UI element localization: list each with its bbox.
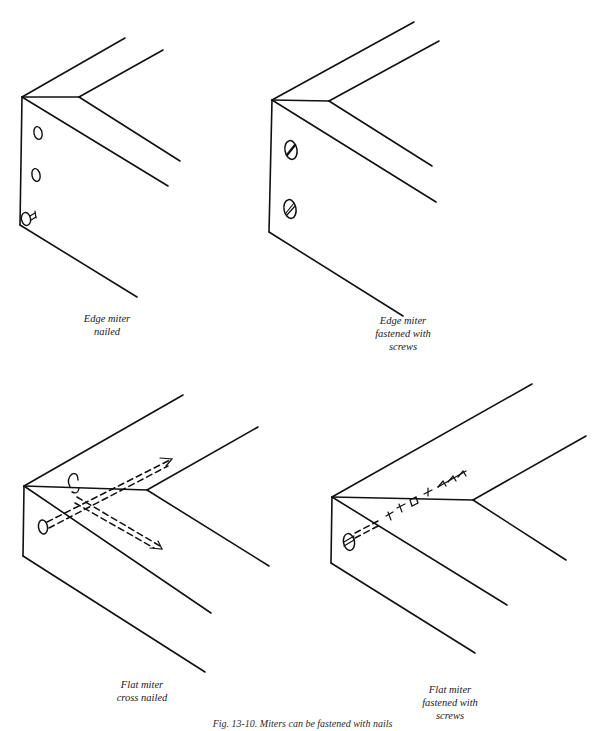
nail-hole-icon: [33, 126, 44, 140]
nail-head-icon: [20, 211, 36, 226]
nail-hole-icon: [31, 168, 42, 182]
board-outline: [20, 38, 180, 297]
panel-edge-miter-screws: [269, 22, 439, 316]
board-outline: [269, 22, 439, 316]
nail-icon: [68, 474, 162, 549]
panel-flat-miter-cross-nailed: [23, 395, 269, 672]
label-edge-miter-nailed: Edge miter nailed: [62, 312, 152, 338]
label-flat-miter-screws: Flat miter fastened with screws: [400, 683, 500, 722]
slotted-screw-icon: [283, 140, 298, 161]
label-line: Edge miter: [353, 314, 453, 327]
miter-joints-drawing: [0, 0, 605, 731]
label-line: nailed: [62, 325, 152, 338]
panel-flat-miter-screws: [331, 384, 586, 653]
figure-caption: Fig. 13-10. Miters can be fastened with …: [0, 718, 605, 731]
label-line: Edge miter: [62, 312, 152, 325]
label-line: screws: [353, 340, 453, 353]
miter-line: [332, 497, 473, 500]
figure-13-10: Edge miter nailed Edge miter fastened wi…: [0, 0, 605, 731]
miter-line: [272, 100, 329, 101]
label-edge-miter-screws: Edge miter fastened with screws: [353, 314, 453, 353]
label-line: cross nailed: [97, 691, 187, 704]
slotted-screw-icon: [282, 199, 297, 220]
nail-icon: [37, 458, 172, 535]
slotted-screw-icon: [342, 533, 356, 552]
label-line: Flat miter: [97, 678, 187, 691]
label-line: Flat miter: [400, 683, 500, 696]
label-line: fastened with: [353, 327, 453, 340]
panel-edge-miter-nailed: [20, 38, 180, 297]
screw-shank-hidden: [355, 471, 466, 538]
label-flat-miter-cross-nailed: Flat miter cross nailed: [97, 678, 187, 704]
label-line: fastened with: [400, 696, 500, 709]
board-outline: [331, 384, 586, 653]
board-outline: [23, 395, 269, 672]
